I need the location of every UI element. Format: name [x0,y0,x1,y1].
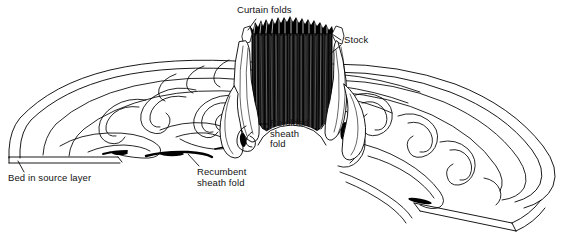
label-curtain-folds: Curtain folds [237,5,292,16]
label-refolded-sheath-fold: Refolded sheath fold [270,118,309,150]
sheath-fold-diagram: Curtain folds Stock Refolded sheath fold… [0,0,577,240]
label-recumbent-sheath-fold: Recumbent sheath fold [197,167,246,188]
label-stock: Stock [344,35,368,46]
label-bed-in-source-layer: Bed in source layer [8,173,91,184]
